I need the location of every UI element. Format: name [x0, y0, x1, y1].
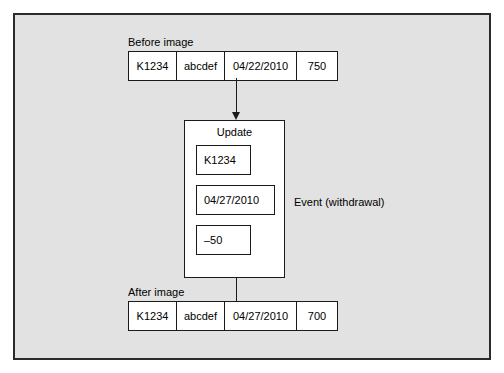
update-field-amount: –50 — [196, 225, 251, 255]
update-title: Update — [185, 126, 284, 138]
before-cell-date: 04/22/2010 — [225, 52, 297, 80]
arrow-head — [232, 112, 240, 120]
update-field-key: K1234 — [196, 145, 251, 175]
after-cell-date: 04/27/2010 — [225, 302, 297, 330]
before-cell-name: abcdef — [177, 52, 225, 80]
arrow-shaft — [236, 78, 237, 112]
before-cell-key: K1234 — [129, 52, 177, 80]
after-image-record: K1234 abcdef 04/27/2010 700 — [128, 301, 338, 331]
event-label: Event (withdrawal) — [294, 196, 384, 209]
after-cell-key: K1234 — [129, 302, 177, 330]
before-image-record: K1234 abcdef 04/22/2010 750 — [128, 51, 338, 81]
after-image-label: After image — [128, 286, 184, 299]
after-cell-name: abcdef — [177, 302, 225, 330]
update-field-date: 04/27/2010 — [196, 185, 275, 215]
before-cell-amount: 750 — [297, 52, 337, 80]
after-cell-amount: 700 — [297, 302, 337, 330]
before-image-label: Before image — [128, 36, 193, 49]
arrow-before-to-update-icon — [232, 78, 241, 120]
update-box: Update K1234 04/27/2010 –50 — [184, 120, 285, 278]
diagram-frame: Before image K1234 abcdef 04/22/2010 750… — [13, 13, 491, 360]
